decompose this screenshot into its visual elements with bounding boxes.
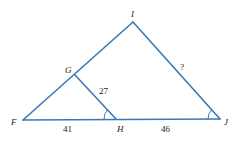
- segment-IJ: [133, 22, 220, 119]
- segment-GH: [75, 75, 116, 119]
- segment-FI: [23, 22, 133, 120]
- angle-mark-J: [208, 110, 212, 119]
- vertex-label-J: J: [224, 117, 229, 127]
- vertex-label-H: H: [116, 124, 124, 134]
- vertex-label-F: F: [10, 117, 17, 127]
- segment-FJ: [23, 119, 220, 120]
- vertex-label-I: I: [130, 9, 135, 19]
- similar-triangles-diagram: F G H I J 41 46 27 ?: [0, 0, 240, 141]
- angle-mark-H: [104, 110, 108, 119]
- vertex-label-G: G: [65, 65, 72, 75]
- length-label-IJ: ?: [180, 62, 184, 72]
- length-label-FH: 41: [63, 124, 72, 134]
- length-label-GH: 27: [99, 86, 109, 96]
- length-label-HJ: 46: [161, 124, 171, 134]
